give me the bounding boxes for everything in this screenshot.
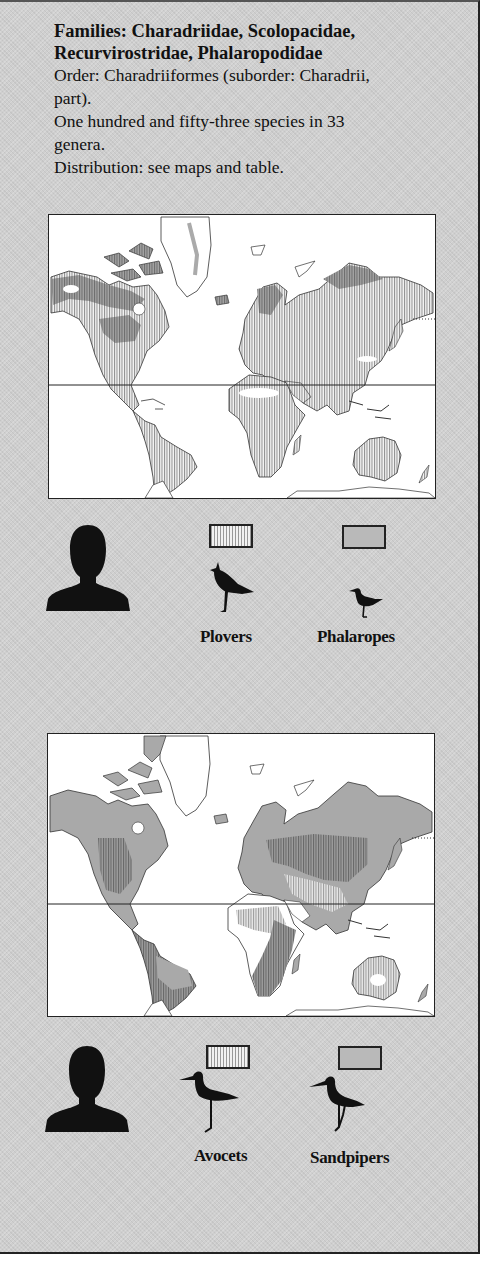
sandpiper-silhouette-icon (309, 1073, 367, 1139)
legend-label-phalaropes: Phalaropes (317, 627, 395, 647)
distribution-line: Distribution: see maps and table. (54, 156, 454, 179)
phalarope-silhouette-icon (349, 585, 383, 619)
legend-swatch-phalaropes (342, 525, 386, 549)
legend-swatch-sandpipers (338, 1046, 382, 1070)
order-line1: Order: Charadriiformes (suborder: Charad… (54, 64, 454, 87)
legend-label-sandpipers: Sandpipers (310, 1148, 389, 1168)
human-silhouette-icon (44, 523, 132, 611)
legend-label-plovers: Plovers (200, 627, 252, 647)
plover-silhouette-icon (208, 562, 256, 614)
map-plovers-phalaropes (48, 214, 436, 499)
species-line1: One hundred and fifty-three species in 3… (54, 110, 454, 133)
order-line2: part). (54, 87, 454, 110)
avocet-silhouette-icon (179, 1070, 241, 1136)
legend-swatch-avocets (206, 1045, 250, 1069)
legend-label-avocets: Avocets (194, 1146, 247, 1166)
families-title-line1: Families: Charadriidae, Scolopacidae, (54, 20, 454, 42)
world-map-graphic (48, 734, 434, 1016)
species-line2: genera. (54, 133, 454, 156)
legend-swatch-plovers (209, 524, 253, 548)
info-panel: Families: Charadriidae, Scolopacidae, Re… (0, 0, 480, 1254)
families-title-line2: Recurvirostridae, Phalaropodidae (54, 42, 454, 64)
family-header: Families: Charadriidae, Scolopacidae, Re… (54, 20, 454, 179)
human-silhouette-icon (43, 1044, 131, 1132)
world-map-graphic (49, 215, 435, 498)
map-avocets-sandpipers (47, 733, 435, 1017)
